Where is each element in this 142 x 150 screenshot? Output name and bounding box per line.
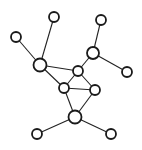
- node-C: [34, 59, 47, 72]
- node-E: [87, 47, 99, 59]
- node-D: [96, 15, 106, 25]
- network-graph: [0, 0, 142, 150]
- node-layer: [11, 12, 132, 139]
- node-F: [122, 67, 132, 77]
- node-I: [90, 85, 100, 95]
- node-L: [106, 129, 116, 139]
- node-B: [49, 12, 59, 22]
- node-K: [32, 129, 42, 139]
- node-J: [69, 111, 82, 124]
- edge-B-C: [40, 17, 54, 65]
- node-H: [59, 83, 69, 93]
- node-A: [11, 32, 21, 42]
- node-G: [73, 66, 83, 76]
